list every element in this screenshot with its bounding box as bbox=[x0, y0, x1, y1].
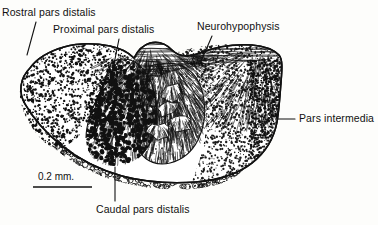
label-neurohypophysis: Neurohypophysis bbox=[197, 21, 280, 32]
label-pars-intermedia: Pars intermedia bbox=[299, 113, 374, 124]
leader-rostral-pars-distalis bbox=[27, 22, 36, 55]
label-proximal-pars-distalis: Proximal pars distalis bbox=[53, 24, 154, 35]
figure-container: Rostral pars distalis Proximal pars dist… bbox=[0, 0, 378, 225]
label-caudal-pars-distalis: Caudal pars distalis bbox=[96, 204, 190, 215]
label-rostral-pars-distalis: Rostral pars distalis bbox=[2, 7, 96, 18]
scale-bar-label: 0.2 mm. bbox=[38, 171, 74, 182]
